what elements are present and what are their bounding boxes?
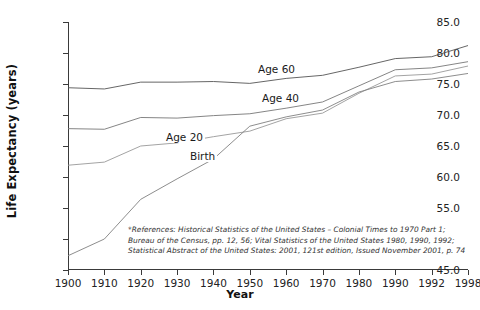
footnote-line-3: Statistical Abstract of the United State…: [128, 246, 468, 257]
life-expectancy-chart: Life Expectancy (years) 45.050.055.060.0…: [0, 0, 480, 310]
x-tick-mark: [141, 270, 142, 275]
y-axis-title-text: Life Expectancy (years): [5, 64, 19, 218]
x-tick-mark: [286, 270, 287, 275]
series-label-birth: Birth: [188, 150, 217, 162]
x-axis-title: Year: [0, 288, 480, 301]
footnote-line-1: *References: Historical Statistics of th…: [128, 225, 468, 236]
x-tick-mark: [323, 270, 324, 275]
footnote-line-2: Bureau of the Census, pp. 12, 56; Vital …: [128, 236, 468, 247]
series-label-age-40: Age 40: [260, 92, 301, 104]
x-tick-mark: [432, 270, 433, 275]
x-tick-mark: [68, 270, 69, 275]
references-footnote: *References: Historical Statistics of th…: [128, 225, 468, 257]
x-tick-mark: [177, 270, 178, 275]
series-label-age-60: Age 60: [256, 63, 297, 75]
x-tick-mark: [468, 270, 469, 275]
y-axis-title: Life Expectancy (years): [0, 0, 24, 282]
x-axis-title-text: Year: [226, 288, 253, 301]
x-tick-mark: [359, 270, 360, 275]
series-label-age-20: Age 20: [164, 131, 205, 143]
x-tick-mark: [104, 270, 105, 275]
x-tick-mark: [213, 270, 214, 275]
x-tick-mark: [395, 270, 396, 275]
x-tick-mark: [250, 270, 251, 275]
